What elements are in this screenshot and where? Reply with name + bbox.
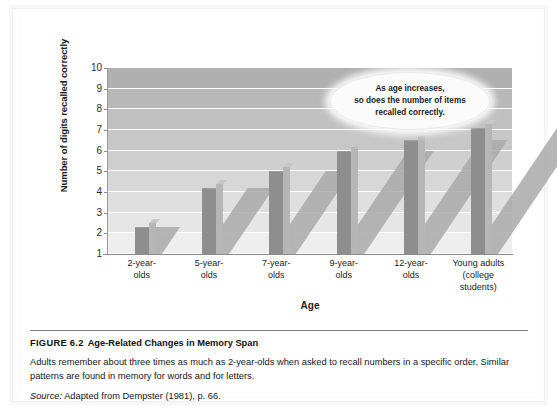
bar-side-face xyxy=(418,136,425,254)
bar-top-face xyxy=(216,180,227,184)
callout-bubble: As age increases, so does the number of … xyxy=(330,72,490,130)
chart-container: Number of digits recalled correctly 1234… xyxy=(30,22,528,320)
x-axis-title: Age xyxy=(108,300,512,311)
bar-side-face xyxy=(283,167,290,254)
x-category-line: olds xyxy=(335,270,352,280)
bar-side-face xyxy=(216,184,223,254)
x-category-line: 7-year- xyxy=(262,258,291,268)
bar[interactable] xyxy=(135,227,149,254)
y-tick-label: 4 xyxy=(96,187,102,197)
x-category-line: 2-year- xyxy=(127,258,156,268)
bar[interactable] xyxy=(337,151,351,254)
bar-slot xyxy=(175,68,242,254)
x-category-label: 2-year-olds xyxy=(108,258,175,294)
bar-top-face xyxy=(149,219,160,223)
bar-side-face xyxy=(351,147,358,254)
x-category-label: 5-year-olds xyxy=(175,258,242,294)
x-category-line: (college xyxy=(463,270,495,280)
bar[interactable] xyxy=(471,128,485,254)
plot-wrapper: 12345678910 As age increases, so does th… xyxy=(108,68,512,254)
callout-line-1: As age increases, xyxy=(375,84,444,93)
bar-side-face xyxy=(149,223,156,254)
y-tick-label: 3 xyxy=(96,208,102,218)
x-category-label: 12-year-olds xyxy=(377,258,444,294)
y-axis-title: Number of digits recalled correctly xyxy=(58,21,69,211)
y-tick-label: 6 xyxy=(96,146,102,156)
x-category-line: olds xyxy=(201,270,218,280)
y-tick-label: 10 xyxy=(91,63,102,73)
bar-slot xyxy=(108,68,175,254)
x-category-label: Young adults(collegestudents) xyxy=(445,258,512,294)
x-category-line: 9-year- xyxy=(329,258,358,268)
x-category-line: students) xyxy=(460,282,497,292)
x-category-label: 9-year-olds xyxy=(310,258,377,294)
y-tick-label: 5 xyxy=(96,166,102,176)
bar[interactable] xyxy=(404,140,418,254)
y-tick-mark xyxy=(104,254,108,255)
bar-slot xyxy=(243,68,310,254)
x-axis-category-labels: 2-year-olds5-year-olds7-year-olds9-year-… xyxy=(108,258,512,294)
caption-divider xyxy=(30,330,528,331)
bar[interactable] xyxy=(269,171,283,254)
figure-source: Source: Adapted from Dempster (1981), p.… xyxy=(30,391,528,401)
x-category-line: olds xyxy=(133,270,150,280)
bar-top-face xyxy=(418,132,429,136)
figure-page: Number of digits recalled correctly 1234… xyxy=(0,0,557,410)
x-category-line: olds xyxy=(403,270,420,280)
x-category-label: 7-year-olds xyxy=(243,258,310,294)
figure-number: FIGURE 6.2 xyxy=(30,338,84,348)
figure-card: Number of digits recalled correctly 1234… xyxy=(22,14,536,396)
y-tick-label: 7 xyxy=(96,125,102,135)
source-text: Adapted from Dempster (1981), p. 66. xyxy=(64,391,221,401)
y-tick-label: 2 xyxy=(96,228,102,238)
figure-title-line: FIGURE 6.2Age-Related Changes in Memory … xyxy=(30,338,528,348)
figure-caption: FIGURE 6.2Age-Related Changes in Memory … xyxy=(30,338,528,401)
y-tick-label: 9 xyxy=(96,84,102,94)
x-category-line: Young adults xyxy=(452,258,504,268)
y-tick-label: 8 xyxy=(96,104,102,114)
x-category-line: olds xyxy=(268,270,285,280)
bar[interactable] xyxy=(202,188,216,254)
bar-top-face xyxy=(485,120,496,124)
x-category-line: 12-year- xyxy=(394,258,428,268)
bar-top-face xyxy=(283,163,294,167)
bar-side-face xyxy=(485,124,492,254)
callout-line-3: recalled correctly. xyxy=(375,108,444,117)
callout-line-2: so does the number of items xyxy=(354,96,465,105)
figure-title: Age-Related Changes in Memory Span xyxy=(88,338,258,348)
bar-top-face xyxy=(351,143,362,147)
x-category-line: 5-year- xyxy=(195,258,224,268)
y-tick-label: 1 xyxy=(96,249,102,259)
source-word: Source: xyxy=(30,391,62,401)
figure-description: Adults remember about three times as muc… xyxy=(30,355,528,384)
callout-text: As age increases, so does the number of … xyxy=(350,83,469,119)
